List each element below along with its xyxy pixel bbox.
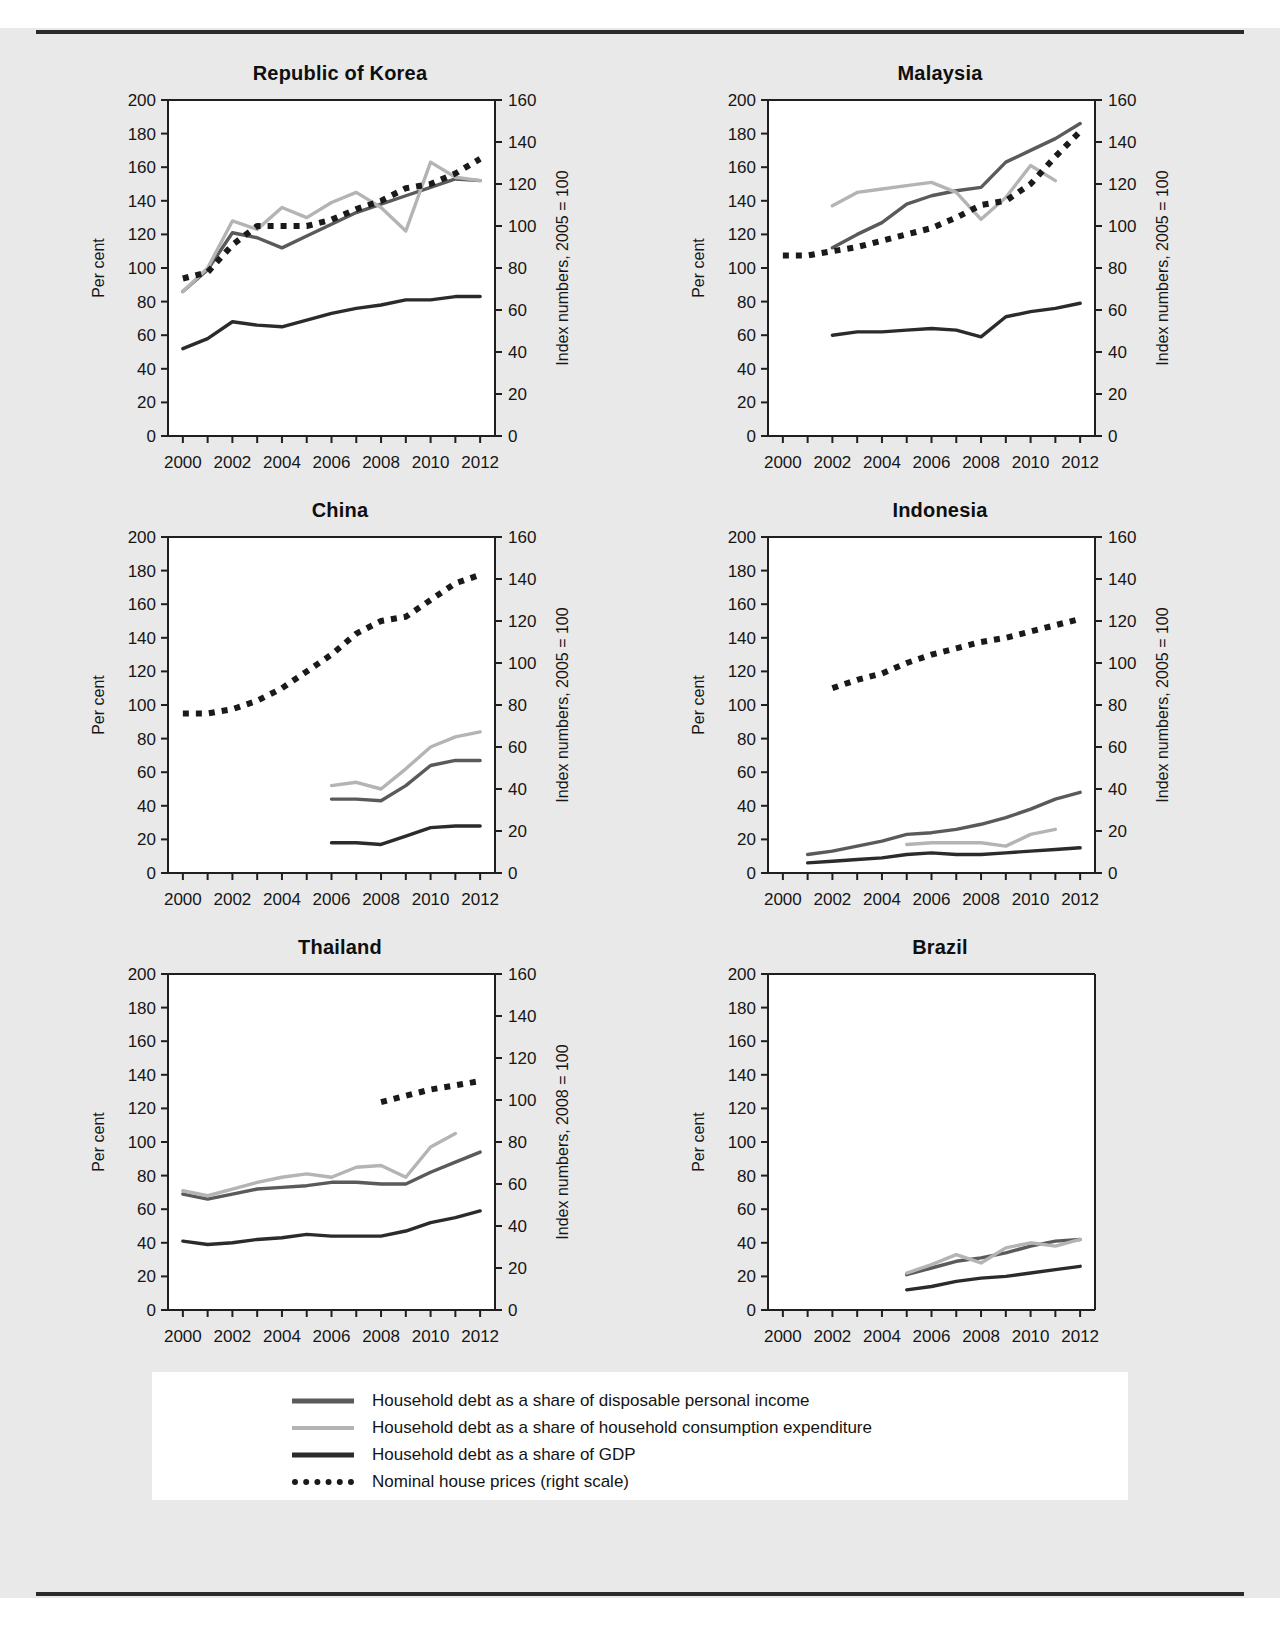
svg-text:2000: 2000	[164, 1327, 202, 1346]
svg-text:60: 60	[137, 763, 156, 782]
svg-text:40: 40	[1108, 780, 1127, 799]
svg-text:2008: 2008	[962, 1327, 1000, 1346]
legend-item: Household debt as a share of household c…	[292, 1415, 872, 1441]
svg-text:120: 120	[508, 1049, 536, 1068]
svg-text:80: 80	[737, 293, 756, 312]
svg-text:140: 140	[728, 192, 756, 211]
svg-text:40: 40	[137, 797, 156, 816]
plot-area	[168, 974, 495, 1310]
svg-text:120: 120	[728, 662, 756, 681]
svg-text:200: 200	[728, 965, 756, 984]
panel-brazil: Brazil020406080100120140160180200Per cen…	[640, 926, 1240, 1351]
left-axis-title: Per cent	[90, 238, 107, 298]
svg-text:80: 80	[137, 1167, 156, 1186]
svg-text:2000: 2000	[764, 890, 802, 909]
legend-item: Household debt as a share of disposable …	[292, 1388, 872, 1414]
svg-text:2006: 2006	[913, 890, 951, 909]
svg-text:80: 80	[737, 730, 756, 749]
svg-text:160: 160	[1108, 528, 1136, 547]
right-axis: 020406080100120140160	[495, 528, 536, 883]
svg-text:2008: 2008	[962, 890, 1000, 909]
svg-text:20: 20	[137, 830, 156, 849]
svg-text:20: 20	[737, 830, 756, 849]
svg-text:20: 20	[508, 822, 527, 841]
legend-rows: Household debt as a share of disposable …	[292, 1388, 872, 1496]
bottom-rule	[36, 1592, 1244, 1596]
svg-text:100: 100	[728, 1133, 756, 1152]
svg-text:120: 120	[508, 612, 536, 631]
x-axis: 2000200220042006200820102012	[164, 873, 499, 909]
x-axis: 2000200220042006200820102012	[764, 436, 1099, 472]
svg-text:100: 100	[728, 696, 756, 715]
svg-text:0: 0	[147, 1301, 156, 1320]
svg-text:80: 80	[508, 696, 527, 715]
left-axis: 020406080100120140160180200	[128, 965, 168, 1320]
svg-text:180: 180	[128, 999, 156, 1018]
plot-area	[168, 100, 495, 436]
svg-text:180: 180	[128, 562, 156, 581]
svg-text:140: 140	[128, 1066, 156, 1085]
svg-text:140: 140	[1108, 133, 1136, 152]
svg-text:2006: 2006	[313, 1327, 351, 1346]
svg-text:160: 160	[508, 528, 536, 547]
right-axis: 020406080100120140160	[1095, 528, 1136, 883]
svg-text:2004: 2004	[863, 890, 901, 909]
legend-label: Nominal house prices (right scale)	[372, 1472, 629, 1492]
svg-text:2012: 2012	[1061, 453, 1099, 472]
plot-wrapper: 020406080100120140160180200Per cent02040…	[640, 489, 1240, 914]
right-axis-title: Index numbers, 2008 = 100	[554, 1044, 571, 1239]
legend-label: Household debt as a share of GDP	[372, 1445, 636, 1465]
svg-text:140: 140	[508, 1007, 536, 1026]
svg-text:0: 0	[1108, 864, 1117, 883]
svg-text:140: 140	[728, 1066, 756, 1085]
svg-text:160: 160	[728, 595, 756, 614]
svg-text:2012: 2012	[1061, 890, 1099, 909]
svg-text:2010: 2010	[1012, 1327, 1050, 1346]
panel-indonesia: Indonesia020406080100120140160180200Per …	[640, 489, 1240, 914]
svg-text:0: 0	[1108, 427, 1117, 446]
legend: Household debt as a share of disposable …	[152, 1372, 1128, 1500]
plot-wrapper: 020406080100120140160180200Per cent02040…	[640, 52, 1240, 477]
right-axis: 020406080100120140160	[1095, 91, 1136, 446]
x-axis: 2000200220042006200820102012	[164, 436, 499, 472]
svg-text:100: 100	[1108, 217, 1136, 236]
svg-text:2006: 2006	[313, 890, 351, 909]
svg-text:40: 40	[137, 360, 156, 379]
plot-svg: 020406080100120140160180200Per cent02040…	[40, 489, 640, 914]
panel-malaysia: Malaysia020406080100120140160180200Per c…	[640, 52, 1240, 477]
svg-text:120: 120	[508, 175, 536, 194]
svg-text:20: 20	[508, 1259, 527, 1278]
plot-area	[768, 974, 1095, 1310]
left-axis: 020406080100120140160180200	[128, 91, 168, 446]
svg-text:40: 40	[508, 780, 527, 799]
svg-text:2008: 2008	[362, 453, 400, 472]
svg-text:0: 0	[508, 427, 517, 446]
svg-text:60: 60	[508, 1175, 527, 1194]
svg-text:140: 140	[128, 629, 156, 648]
svg-text:0: 0	[147, 427, 156, 446]
svg-text:200: 200	[728, 528, 756, 547]
svg-text:2010: 2010	[1012, 890, 1050, 909]
svg-text:80: 80	[1108, 696, 1127, 715]
svg-text:100: 100	[1108, 654, 1136, 673]
svg-text:0: 0	[747, 864, 756, 883]
svg-text:80: 80	[137, 293, 156, 312]
panel-thailand: Thailand020406080100120140160180200Per c…	[40, 926, 640, 1351]
svg-text:100: 100	[128, 696, 156, 715]
svg-text:100: 100	[128, 259, 156, 278]
svg-text:60: 60	[137, 326, 156, 345]
plot-wrapper: 020406080100120140160180200Per cent20002…	[640, 926, 1240, 1351]
svg-text:2012: 2012	[461, 453, 499, 472]
svg-text:80: 80	[137, 730, 156, 749]
svg-text:2012: 2012	[1061, 1327, 1099, 1346]
svg-text:20: 20	[737, 1267, 756, 1286]
svg-text:2012: 2012	[461, 890, 499, 909]
svg-text:2004: 2004	[263, 453, 301, 472]
right-axis-title: Index numbers, 2005 = 100	[554, 607, 571, 802]
svg-text:100: 100	[508, 654, 536, 673]
plot-svg: 020406080100120140160180200Per cent02040…	[640, 489, 1240, 914]
svg-text:200: 200	[128, 965, 156, 984]
svg-text:160: 160	[508, 965, 536, 984]
svg-text:2000: 2000	[764, 1327, 802, 1346]
svg-text:120: 120	[728, 1099, 756, 1118]
